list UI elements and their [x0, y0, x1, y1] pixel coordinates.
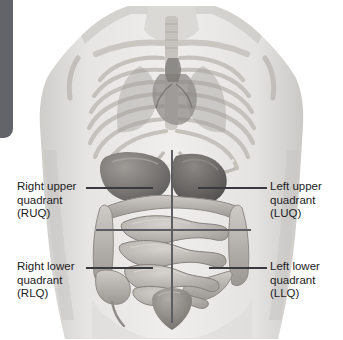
- abdominal-quadrants-figure: Right upper quadrant (RUQ) Left upper qu…: [0, 0, 343, 340]
- leader-line-llq: [209, 267, 267, 269]
- label-rlq-line2: quadrant: [17, 274, 75, 288]
- label-left-upper-quadrant: Left upper quadrant (LUQ): [270, 180, 322, 221]
- label-right-upper-quadrant: Right upper quadrant (RUQ): [17, 180, 76, 221]
- leader-line-ruq: [86, 187, 153, 189]
- label-ruq-line3: (RUQ): [17, 207, 76, 221]
- label-llq-line2: quadrant: [270, 274, 320, 288]
- label-rlq-line1: Right lower: [17, 260, 75, 274]
- leader-line-luq: [198, 187, 267, 189]
- label-ruq-line2: quadrant: [17, 194, 76, 208]
- label-luq-line1: Left upper: [270, 180, 322, 194]
- label-llq-line3: (LLQ): [270, 287, 320, 301]
- transumbilical-divider-line: [96, 229, 251, 231]
- label-llq-line1: Left lower: [270, 260, 320, 274]
- label-ruq-line1: Right upper: [17, 180, 76, 194]
- label-luq-line3: (LUQ): [270, 207, 322, 221]
- label-luq-line2: quadrant: [270, 194, 322, 208]
- label-right-lower-quadrant: Right lower quadrant (RLQ): [17, 260, 75, 301]
- midsagittal-divider-line: [171, 150, 173, 323]
- label-rlq-line3: (RLQ): [17, 287, 75, 301]
- label-left-lower-quadrant: Left lower quadrant (LLQ): [270, 260, 320, 301]
- leader-line-rlq: [86, 267, 153, 269]
